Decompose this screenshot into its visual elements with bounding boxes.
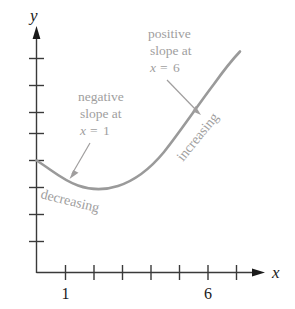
positive-slope-arrow-shaft <box>167 80 197 111</box>
y-axis-arrowhead <box>33 26 41 39</box>
x-tick-label-6: 6 <box>204 285 212 302</box>
negative-slope-equals: = <box>90 123 98 138</box>
negative-slope-value: 1 <box>103 123 110 138</box>
negative-slope-arrow-shaft <box>72 143 90 174</box>
x-tick-label-1: 1 <box>62 285 70 302</box>
negative-slope-variable: x <box>79 123 86 138</box>
negative-slope-arrowhead <box>70 170 79 179</box>
positive-slope-line2: slope at <box>150 43 192 58</box>
positive-slope-value: 6 <box>173 60 180 75</box>
figure-svg: y x 1 6 negative slope at x = 1 positive… <box>0 0 295 309</box>
negative-slope-line1: negative <box>78 89 124 104</box>
negative-slope-line2: slope at <box>80 106 122 121</box>
x-axis-label: x <box>271 263 280 282</box>
positive-slope-variable: x <box>149 60 156 75</box>
decreasing-label: decreasing <box>39 186 101 215</box>
slope-diagram-figure: y x 1 6 negative slope at x = 1 positive… <box>0 0 295 309</box>
positive-slope-equals: = <box>160 60 168 75</box>
x-axis-arrowhead <box>252 269 265 277</box>
increasing-label: increasing <box>174 110 222 164</box>
negative-slope-annotation: negative slope at x = 1 <box>70 89 124 179</box>
positive-slope-annotation: positive slope at x = 6 <box>148 26 201 115</box>
y-axis-label: y <box>28 6 38 25</box>
positive-slope-line1: positive <box>148 26 191 41</box>
